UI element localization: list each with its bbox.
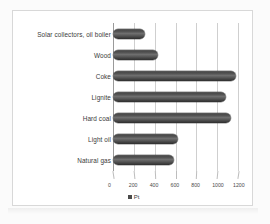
bar — [113, 92, 226, 102]
bar — [113, 155, 174, 165]
legend-swatch-icon — [128, 195, 132, 199]
category-label: Coke — [96, 72, 111, 79]
tick-label: 0 — [108, 182, 111, 188]
tick-mark — [134, 171, 136, 179]
tick-label: 200 — [129, 182, 138, 188]
tick-mark — [112, 171, 114, 179]
category-label: Wood — [94, 51, 111, 58]
tick-label: 400 — [150, 182, 159, 188]
chart-frame: Solar collectors, oil boilerWoodCokeLign… — [12, 10, 253, 206]
category-label: Solar collectors, oil boiler — [37, 30, 111, 37]
tick-mark — [196, 171, 197, 179]
bar — [113, 71, 236, 81]
bar — [113, 29, 145, 39]
tick-label: 600 — [171, 182, 180, 188]
tick-mark — [217, 171, 219, 179]
tick-mark — [237, 171, 239, 179]
legend-label: Pt — [134, 194, 140, 200]
bar-chart-plot-area: Solar collectors, oil boilerWoodCokeLign… — [13, 11, 254, 207]
gridline-1200 — [238, 23, 239, 171]
bar — [113, 50, 158, 60]
chart-legend: Pt — [13, 194, 254, 200]
category-label: Hard coal — [83, 115, 111, 122]
bar — [113, 134, 178, 144]
tick-mark — [155, 171, 156, 179]
scanned-page-background: Solar collectors, oil boilerWoodCokeLign… — [0, 0, 270, 224]
tick-label: 1200 — [233, 182, 245, 188]
category-label: Lignite — [91, 94, 111, 101]
tick-label: 800 — [191, 182, 200, 188]
category-label: Natural gas — [77, 157, 111, 164]
category-label: Light oil — [88, 136, 111, 143]
tick-label: 1000 — [212, 182, 224, 188]
bar — [113, 113, 231, 123]
tick-mark — [176, 171, 177, 179]
